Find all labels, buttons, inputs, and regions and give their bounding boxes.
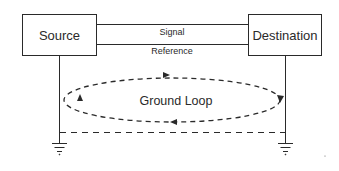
reference-label: Reference <box>151 46 193 56</box>
arrow-left-icon <box>170 119 177 125</box>
arrow-down-icon <box>277 95 284 103</box>
arrow-up-icon <box>77 94 83 101</box>
destination-block: Destination <box>249 15 322 56</box>
ground-loop-diagram: Source Destination Signal Reference Grou… <box>0 0 339 171</box>
ground-loop: Ground Loop <box>64 72 284 125</box>
ground-loop-label: Ground Loop <box>140 94 213 108</box>
signal-label: Signal <box>159 27 184 37</box>
source-ground-icon <box>52 144 67 155</box>
source-label: Source <box>39 28 80 43</box>
arrow-right-icon <box>163 72 170 78</box>
signal-wire: Signal <box>97 25 249 38</box>
source-block: Source <box>23 15 97 56</box>
destination-label: Destination <box>252 28 317 43</box>
destination-ground-icon <box>278 144 293 155</box>
reference-wire: Reference <box>97 45 249 56</box>
stray-dot <box>324 155 325 156</box>
